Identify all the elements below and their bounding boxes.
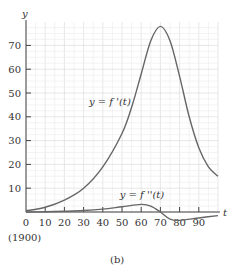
- chart: 102030405060700102030405060708090 y = f …: [0, 0, 233, 266]
- annotation-f-double-prime: y = f ''(t): [119, 189, 165, 200]
- x-tick-label: 50: [116, 217, 129, 228]
- x-tick-label: 80: [173, 217, 186, 228]
- y-tick-label: 10: [8, 183, 21, 194]
- x-tick-label: 60: [135, 217, 148, 228]
- x-tick-label: 70: [154, 217, 167, 228]
- caption: (b): [110, 254, 124, 265]
- x-tick-label: 10: [39, 217, 52, 228]
- y-tick-label: 30: [8, 135, 21, 146]
- y-tick-label: 60: [8, 64, 21, 75]
- y-tick-label: 50: [8, 88, 21, 99]
- y-axis-label: y: [21, 8, 28, 19]
- x-tick-label: 0: [23, 217, 29, 228]
- y-tick-label: 20: [8, 159, 21, 170]
- x-origin-note: (1900): [8, 232, 41, 243]
- x-tick-label: 40: [96, 217, 109, 228]
- y-tick-label: 40: [8, 111, 21, 122]
- x-tick-label: 20: [58, 217, 71, 228]
- y-tick-label: 70: [8, 40, 21, 51]
- x-axis-label: t: [223, 207, 228, 218]
- annotation-f-prime: y = f '(t): [88, 96, 131, 107]
- x-tick-label: 30: [77, 217, 90, 228]
